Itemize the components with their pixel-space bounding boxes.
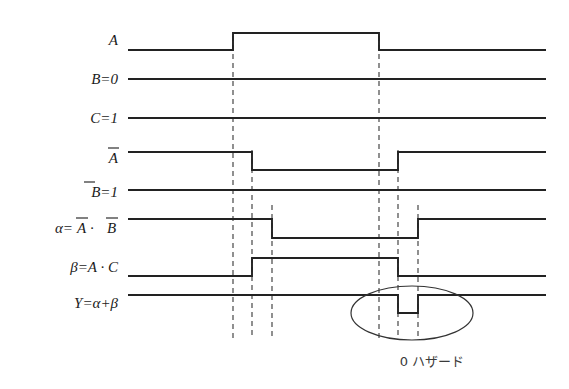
hazard-caption: 0 ハザード: [400, 354, 464, 369]
signal-label-c: C=1: [90, 110, 118, 126]
signal-label-b: B=0: [91, 71, 118, 87]
signal-label-alpha-dot: ·: [90, 220, 94, 236]
signal-label-a: A: [108, 32, 119, 48]
waveform-y: [128, 295, 546, 313]
waveform-alpha: [128, 219, 546, 238]
signal-label-bbar-group: B=1: [84, 182, 118, 200]
timing-diagram-canvas: A B=0 C=1 A B=1 α= A · B: [0, 0, 569, 389]
signal-label-abar: A: [108, 150, 119, 166]
signal-label-alpha-a: A: [76, 220, 87, 236]
signal-label-alpha-lhs: α=: [55, 220, 73, 236]
signal-label-bbar: B=1: [91, 184, 118, 200]
signal-label-alpha-group: α= A · B: [55, 218, 118, 236]
signal-label-abar-group: A: [108, 148, 119, 166]
waveforms: [128, 33, 546, 313]
hazard-annotation: 0 ハザード: [351, 286, 473, 369]
waveform-beta: [128, 258, 546, 276]
waveform-abar: [128, 152, 546, 170]
signal-labels: A B=0 C=1 A B=1 α= A · B: [55, 32, 119, 311]
signal-label-y: Y=α+β: [74, 295, 118, 311]
signal-label-alpha-b: B: [107, 220, 116, 236]
dashed-reference-lines: [233, 36, 418, 338]
waveform-a: [128, 33, 546, 50]
signal-label-beta: β=A · C: [69, 259, 119, 275]
timing-diagram-figure: A B=0 C=1 A B=1 α= A · B: [0, 0, 569, 389]
